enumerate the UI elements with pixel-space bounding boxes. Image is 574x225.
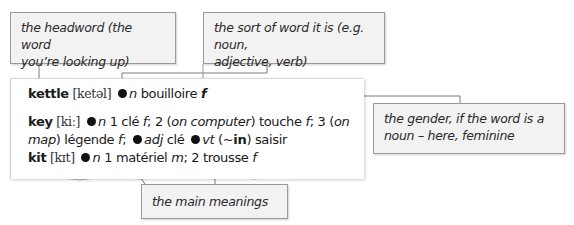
part-of-speech: vt bbox=[202, 132, 214, 147]
dictionary-card: kettle [ketəl] n bouilloire f key [kiː] … bbox=[10, 78, 364, 179]
sense-2: ; 2 trousse bbox=[184, 150, 249, 165]
callout-main-meanings: the main meanings bbox=[141, 184, 288, 219]
phrasal-open: (~ bbox=[218, 132, 233, 147]
callout-gender: the gender, if the word is a noun – here… bbox=[373, 103, 565, 154]
sense-2-prefix: ; 2 ( bbox=[147, 114, 171, 129]
part-of-speech: n bbox=[98, 114, 106, 129]
callout-main-meanings-text: the main meanings bbox=[152, 193, 277, 210]
translation: bouilloire bbox=[141, 86, 197, 101]
sense-1: 1 clé bbox=[110, 114, 139, 129]
gender: f bbox=[252, 150, 256, 165]
callout-headword: the headword (the word you’re looking up… bbox=[10, 12, 176, 64]
bullet-icon bbox=[191, 135, 200, 144]
phrasal-particle: in bbox=[233, 132, 246, 147]
entry-key-line1: key [kiː] n 1 clé f; 2 (on computer) tou… bbox=[28, 113, 349, 131]
gender: f bbox=[201, 86, 206, 101]
pronunciation: [kiː] bbox=[56, 114, 80, 129]
bullet-icon bbox=[118, 89, 127, 98]
pronunciation: [kɪt] bbox=[50, 150, 75, 165]
callout-headword-line1: the headword (the word bbox=[21, 19, 165, 53]
translation: saisir bbox=[255, 132, 287, 147]
entry-kit: kit [kɪt] n 1 matériel m; 2 trousse f bbox=[28, 149, 257, 167]
entry-kettle: kettle [ketəl] n bouilloire f bbox=[28, 85, 206, 103]
bullet-icon bbox=[87, 117, 96, 126]
headword: key bbox=[28, 114, 53, 129]
part-of-speech: n bbox=[92, 150, 100, 165]
bullet-icon bbox=[133, 135, 142, 144]
part-of-speech: adj bbox=[144, 132, 163, 147]
gender: m bbox=[171, 150, 183, 165]
callout-word-type: the sort of word it is (e.g. noun, adjec… bbox=[203, 12, 385, 64]
context: on bbox=[334, 114, 350, 129]
entry-key-line2: map) légende f; adj clé vt (~in) saisir bbox=[28, 131, 287, 149]
sense-2: ) touche bbox=[251, 114, 302, 129]
callout-gender-line2: noun – here, feminine bbox=[384, 127, 554, 144]
callout-headword-line2: you’re looking up) bbox=[21, 53, 165, 70]
context: map bbox=[28, 132, 56, 147]
sense-3-prefix: ; 3 ( bbox=[310, 114, 334, 129]
part-of-speech: n bbox=[129, 86, 137, 101]
translation: clé bbox=[167, 132, 185, 147]
sense-3: ) légende bbox=[56, 132, 114, 147]
sense-1: 1 matériel bbox=[104, 150, 167, 165]
phrasal-close: ) bbox=[246, 132, 251, 147]
callout-word-type-line2: adjective, verb) bbox=[214, 53, 374, 70]
callout-gender-line1: the gender, if the word is a bbox=[384, 110, 554, 127]
bullet-icon bbox=[81, 153, 90, 162]
separator: ; bbox=[122, 132, 126, 147]
context: on computer bbox=[171, 114, 250, 129]
headword: kettle bbox=[28, 86, 69, 101]
headword: kit bbox=[28, 150, 46, 165]
pronunciation: [ketəl] bbox=[73, 86, 112, 101]
callout-word-type-line1: the sort of word it is (e.g. noun, bbox=[214, 19, 374, 53]
